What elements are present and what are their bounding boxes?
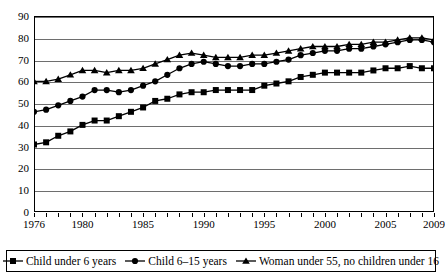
series-line-0 — [34, 66, 434, 144]
x-tick-1987 — [167, 213, 168, 217]
x-tick-2006 — [398, 213, 399, 217]
x-tick-1984 — [131, 213, 132, 217]
x-tick-2002 — [349, 213, 350, 217]
x-tick-label-2005: 2005 — [375, 218, 397, 230]
y-tick-label-20: 20 — [18, 163, 29, 174]
legend-label-0: Child under 6 years — [26, 255, 116, 267]
x-tick-1989 — [192, 213, 193, 217]
x-axis: 19761980198519901995200020052009 — [0, 213, 442, 233]
legend-item-2[interactable]: Woman under 55, no children under 16 — [236, 255, 439, 267]
x-tick-1992 — [228, 213, 229, 217]
x-tick-1985 — [143, 213, 144, 217]
series-1 — [34, 37, 434, 115]
x-tick-2000 — [325, 213, 326, 217]
x-tick-1983 — [119, 213, 120, 217]
y-tick-label-10: 10 — [18, 185, 29, 196]
x-tick-1990 — [204, 213, 205, 217]
x-tick-1988 — [179, 213, 180, 217]
y-tick-label-50: 50 — [18, 98, 29, 109]
x-tick-2007 — [410, 213, 411, 217]
y-tick-label-90: 90 — [18, 11, 29, 22]
x-tick-2005 — [386, 213, 387, 217]
x-tick-1976 — [34, 213, 35, 217]
x-tick-1980 — [82, 213, 83, 217]
series-2 — [34, 34, 434, 84]
x-tick-1981 — [95, 213, 96, 217]
x-tick-label-1990: 1990 — [193, 218, 215, 230]
x-tick-1993 — [240, 213, 241, 217]
x-tick-1999 — [313, 213, 314, 217]
legend-item-0[interactable]: Child under 6 years — [3, 255, 116, 267]
y-tick-label-80: 80 — [18, 32, 29, 43]
x-tick-1994 — [252, 213, 253, 217]
series-layer — [34, 16, 434, 212]
y-tick-label-70: 70 — [18, 54, 29, 65]
legend-label-2: Woman under 55, no children under 16 — [259, 255, 439, 267]
x-tick-1986 — [155, 213, 156, 217]
x-tick-2009 — [434, 213, 435, 217]
x-tick-2004 — [373, 213, 374, 217]
x-tick-label-1995: 1995 — [253, 218, 275, 230]
x-tick-label-1980: 1980 — [71, 218, 93, 230]
square-marker-icon — [3, 255, 23, 267]
x-tick-1991 — [216, 213, 217, 217]
y-tick-label-60: 60 — [18, 76, 29, 87]
series-0 — [34, 63, 434, 147]
x-tick-1995 — [264, 213, 265, 217]
y-tick-label-30: 30 — [18, 141, 29, 152]
x-tick-1979 — [70, 213, 71, 217]
y-axis: 0102030405060708090 — [0, 0, 34, 212]
x-tick-2001 — [337, 213, 338, 217]
x-tick-label-1976: 1976 — [23, 218, 45, 230]
circle-marker-icon — [125, 255, 145, 267]
x-tick-2008 — [422, 213, 423, 217]
x-tick-label-2000: 2000 — [314, 218, 336, 230]
x-tick-label-2009: 2009 — [423, 218, 445, 230]
chart-legend: Child under 6 yearsChild 6–15 yearsWoman… — [6, 250, 436, 272]
x-tick-1982 — [107, 213, 108, 217]
legend-item-1[interactable]: Child 6–15 years — [125, 255, 227, 267]
series-line-1 — [34, 40, 434, 112]
x-tick-1978 — [58, 213, 59, 217]
x-tick-1996 — [276, 213, 277, 217]
triangle-marker-icon — [236, 255, 256, 267]
x-tick-1977 — [46, 213, 47, 217]
x-tick-1997 — [289, 213, 290, 217]
x-tick-2003 — [361, 213, 362, 217]
x-tick-label-1985: 1985 — [132, 218, 154, 230]
x-tick-1998 — [301, 213, 302, 217]
y-tick-label-40: 40 — [18, 119, 29, 130]
legend-label-1: Child 6–15 years — [148, 255, 227, 267]
